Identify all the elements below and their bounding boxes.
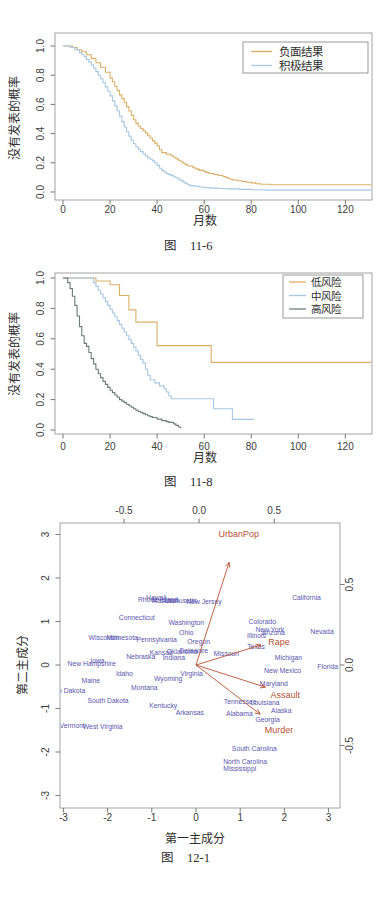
figure-caption: 图11-6	[164, 239, 212, 253]
x-tick-label: 80	[246, 204, 258, 215]
survival-curve-2	[63, 278, 181, 428]
state-label: New York	[255, 626, 284, 633]
figure-11-6: 0204060801001200.00.20.40.60.81.0负面结果积极结…	[7, 33, 372, 253]
top-axis-tick-label: 0.5	[267, 505, 281, 516]
variable-label: Assault	[271, 690, 301, 700]
variable-label: Rape	[268, 637, 290, 647]
x-tick-label: 1	[237, 812, 243, 823]
state-label: Colorado	[249, 618, 277, 625]
right-axis-tick-label: 0.5	[344, 577, 355, 591]
state-label: Arkansas	[176, 709, 205, 716]
right-axis-tick-label: -0.5	[344, 736, 355, 754]
y-tick-label: 0.2	[35, 155, 46, 169]
y-tick-label: 1.0	[35, 39, 46, 53]
state-label: South Dakota	[87, 697, 128, 704]
figures-canvas: 0204060801001200.00.20.40.60.81.0负面结果积极结…	[0, 0, 381, 901]
legend-label: 低风险	[311, 276, 342, 288]
state-label: Nevada	[310, 628, 334, 635]
y-tick-label: -1	[40, 704, 51, 713]
y-tick-label: 3	[40, 531, 51, 537]
legend-label: 积极结果	[279, 59, 324, 72]
state-label: Wisconsin	[89, 634, 120, 641]
top-axis-tick-label: 0.0	[192, 505, 206, 516]
x-tick-label: 0	[60, 204, 66, 215]
state-label: Alaska	[271, 707, 292, 714]
loading-arrowhead	[229, 562, 230, 567]
scanned-book-page: 0204060801001200.00.20.40.60.81.0负面结果积极结…	[0, 0, 381, 901]
state-label: Oregon	[187, 638, 210, 646]
state-label: South Carolina	[232, 745, 277, 752]
x-tick-label: 120	[337, 441, 354, 452]
y-tick-label: 0.8	[35, 301, 46, 315]
state-label: North Dakota	[45, 687, 85, 694]
x-tick-label: 120	[337, 204, 354, 215]
x-tick-label: -2	[103, 812, 112, 823]
y-tick-label: 0.8	[35, 68, 46, 82]
y-tick-label: 0.0	[35, 185, 46, 199]
state-label: Illinois	[247, 632, 266, 639]
state-label: Vermont	[60, 722, 85, 729]
variable-label: Murder	[265, 725, 294, 735]
y-tick-label: -2	[40, 747, 51, 756]
legend-label: 高风险	[311, 303, 342, 315]
x-tick-label: 0	[193, 812, 199, 823]
y-tick-label: 0.4	[35, 126, 46, 140]
legend-label: 中风险	[311, 290, 342, 302]
loading-arrowhead	[260, 687, 265, 688]
x-tick-label: 0	[60, 441, 66, 452]
state-label: Georgia	[256, 716, 280, 724]
state-label: Mississippi	[223, 765, 256, 773]
x-axis-label: 第一主成分	[165, 832, 225, 846]
state-label: Florida	[317, 663, 338, 670]
legend-label: 负面结果	[279, 45, 324, 58]
figure-caption: 图12-1	[161, 851, 210, 865]
state-label: Connecticut	[119, 614, 155, 621]
state-label: Kentucky	[149, 702, 178, 710]
state-label: California	[292, 594, 321, 601]
state-label: Pennsylvania	[136, 636, 177, 644]
top-axis-tick-label: -0.5	[115, 505, 133, 516]
y-axis-label: 第二主成分	[16, 635, 30, 695]
y-tick-label: -3	[40, 791, 51, 800]
x-tick-label: -3	[59, 812, 68, 823]
state-labels-group: AlabamaAlaskaArizonaArkansasCaliforniaCo…	[45, 594, 338, 773]
pca-biplot-generated: -3-2-10123-3-2-10123-0.50.00.50.50.0-0.5…	[40, 505, 355, 823]
y-tick-label: 0.4	[35, 362, 46, 376]
y-tick-label: 0.6	[35, 331, 46, 345]
figure-12-1: -3-2-10123-3-2-10123-0.50.00.50.50.0-0.5…	[16, 505, 355, 865]
x-tick-label: 80	[246, 441, 258, 452]
state-label: Utah	[165, 597, 180, 604]
y-tick-label: 1	[40, 618, 51, 624]
y-tick-label: 0	[40, 662, 51, 668]
x-tick-label: -1	[147, 812, 156, 823]
state-label: West Virginia	[83, 723, 123, 731]
y-tick-label: 2	[40, 575, 51, 581]
x-tick-label: 100	[290, 204, 307, 215]
x-tick-label: 2	[282, 812, 288, 823]
state-label: Oklahoma	[167, 648, 198, 655]
state-label: Maine	[82, 677, 101, 684]
state-label: Ohio	[179, 629, 194, 636]
state-label: Idaho	[116, 670, 133, 677]
state-label: Alabama	[226, 710, 253, 717]
state-label: Nebraska	[126, 653, 155, 660]
x-axis-label: 月数	[193, 213, 217, 228]
right-axis-tick-label: 0.0	[344, 658, 355, 672]
x-tick-label: 20	[104, 204, 116, 215]
survival-chart-2-generated: 0204060801001200.00.20.40.60.81.0低风险中风险高…	[35, 271, 372, 452]
y-tick-label: 0.2	[35, 392, 46, 406]
state-label: Montana	[131, 684, 158, 691]
state-label: Wyoming	[154, 675, 182, 683]
x-axis-label: 月数	[193, 450, 217, 465]
survival-chart-1-generated: 0204060801001200.00.20.40.60.81.0负面结果积极结…	[35, 33, 372, 215]
loading-arrow	[196, 665, 260, 714]
state-label: New Hampshire	[68, 660, 117, 668]
x-tick-label: 100	[290, 441, 307, 452]
survival-curve-1	[63, 278, 254, 420]
state-label: Michigan	[275, 654, 302, 662]
state-label: North Carolina	[223, 758, 267, 765]
y-tick-label: 0.0	[35, 423, 46, 437]
loading-arrow	[196, 665, 265, 687]
state-label: Virginia	[180, 670, 203, 678]
y-tick-label: 1.0	[35, 271, 46, 285]
